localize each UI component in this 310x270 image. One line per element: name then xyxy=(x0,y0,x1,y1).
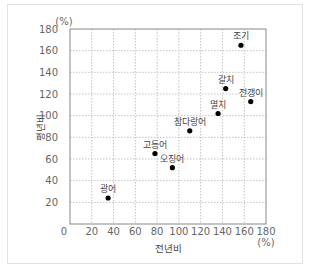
y-tick-label: 80 xyxy=(45,132,58,143)
data-point: 조기 xyxy=(233,31,249,48)
grid-lines xyxy=(70,29,266,224)
x-tick-label: 100 xyxy=(169,226,188,237)
x-tick-label: 160 xyxy=(235,226,254,237)
y-unit-label: (%) xyxy=(55,16,72,27)
point-label: 참다랑어 xyxy=(174,116,206,127)
data-point: 멸치 xyxy=(210,99,226,117)
x-tick-label: 80 xyxy=(151,226,164,237)
x-tick-label: 180 xyxy=(256,226,275,237)
x-tick-label: 120 xyxy=(191,226,210,237)
y-tick-label: 40 xyxy=(45,175,58,186)
axes xyxy=(70,29,266,224)
x-axis-title: 전년비 xyxy=(155,243,182,254)
x-tick-label: 60 xyxy=(129,226,142,237)
point-marker xyxy=(152,151,157,156)
point-marker xyxy=(248,99,253,104)
x-tick-label: 40 xyxy=(107,226,120,237)
y-axis-title: 평년비 xyxy=(35,114,46,141)
point-marker xyxy=(238,43,243,48)
point-marker xyxy=(106,195,111,200)
data-point: 참다랑어 xyxy=(174,116,206,134)
data-point: 전갱이 xyxy=(239,88,263,105)
scatter-chart: 20406080100120140160180 0204060801001201… xyxy=(0,0,310,270)
x-unit-label: (%) xyxy=(257,237,274,248)
x-tick-labels: 020406080100120140160180 xyxy=(61,226,276,237)
point-marker xyxy=(215,111,220,116)
x-tick-label: 20 xyxy=(85,226,98,237)
y-tick-label: 120 xyxy=(39,89,58,100)
point-marker xyxy=(223,86,228,91)
y-tick-label: 60 xyxy=(45,154,58,165)
point-label: 고등어 xyxy=(143,140,167,150)
data-point: 갈치 xyxy=(218,74,234,92)
y-tick-label: 160 xyxy=(39,45,58,56)
y-tick-label: 20 xyxy=(45,197,58,208)
data-point: 오징어 xyxy=(160,154,184,171)
point-marker xyxy=(187,128,192,133)
point-label: 오징어 xyxy=(160,154,184,164)
point-label: 전갱이 xyxy=(239,88,263,98)
point-label: 조기 xyxy=(233,31,249,41)
point-label: 갈치 xyxy=(218,74,234,85)
point-label: 광어 xyxy=(100,183,116,194)
plot-frame xyxy=(70,29,266,224)
point-label: 멸치 xyxy=(210,99,226,110)
x-tick-label: 140 xyxy=(213,226,232,237)
x-tick-label: 0 xyxy=(61,226,67,237)
y-tick-label: 140 xyxy=(39,67,58,78)
point-marker xyxy=(170,165,175,170)
